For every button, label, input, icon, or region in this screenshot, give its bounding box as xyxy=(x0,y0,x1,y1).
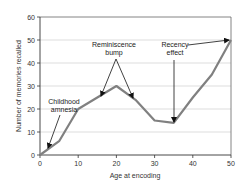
y-tick-label: 0 xyxy=(31,152,35,159)
y-tick-label: 10 xyxy=(27,129,35,136)
x-tick-label: 50 xyxy=(227,160,235,167)
x-tick-label: 40 xyxy=(189,160,197,167)
y-tick-label: 50 xyxy=(27,37,35,44)
x-tick-label: 10 xyxy=(74,160,82,167)
y-tick-label: 60 xyxy=(27,14,35,21)
annotation-label: effect xyxy=(167,49,184,56)
annotation-label: Childhood xyxy=(48,98,80,105)
x-tick-labels: 0 10 20 30 40 50 xyxy=(38,160,235,167)
x-tick-label: 20 xyxy=(113,160,121,167)
y-tick-labels: 60 50 40 30 20 10 0 xyxy=(27,14,35,159)
y-tick-label: 20 xyxy=(27,106,35,113)
annotation-label: bump xyxy=(105,49,123,57)
arrow-icon xyxy=(188,40,229,45)
annotation-recency-effect: Recency effect xyxy=(161,40,229,122)
x-tick-label: 30 xyxy=(151,160,159,167)
annotation-childhood-amnesia: Childhood amnesia xyxy=(48,98,80,148)
annotation-reminiscence-bump: Reminiscence bump xyxy=(92,41,136,98)
annotation-label: Reminiscence xyxy=(92,41,136,48)
line-chart: 60 50 40 30 20 10 0 0 10 20 30 40 50 Age… xyxy=(0,0,249,190)
y-axis-title: Number of memories recalled xyxy=(15,40,22,132)
y-tick-label: 30 xyxy=(27,83,35,90)
y-tick-label: 40 xyxy=(27,60,35,67)
x-tick-label: 0 xyxy=(38,160,42,167)
annotation-label: amnesia xyxy=(51,106,78,113)
annotation-label: Recency xyxy=(161,41,189,49)
x-axis-title: Age at encoding xyxy=(110,172,161,180)
